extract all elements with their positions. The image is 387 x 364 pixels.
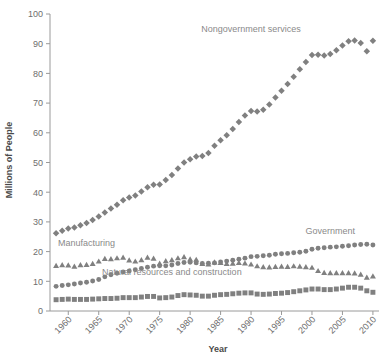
data-point [236,291,241,296]
series-label-1: Manufacturing [58,238,115,248]
data-point [364,274,370,279]
data-point [291,263,297,268]
y-tick-label: 90 [33,39,43,49]
data-point [322,245,327,250]
data-point [260,264,266,269]
data-point [200,261,205,266]
data-point [309,52,316,59]
data-point [248,261,254,266]
data-point [346,243,351,248]
data-point [291,250,296,255]
data-point [77,222,84,229]
data-point [163,258,169,263]
data-point [175,255,181,260]
data-point [340,244,345,249]
data-point [115,296,120,301]
data-point [90,279,95,284]
data-point [71,263,77,268]
data-point [108,296,113,301]
data-point [339,270,345,275]
data-point [132,192,139,199]
data-point [370,273,376,278]
data-point [114,255,120,260]
data-point [144,255,150,260]
data-point [96,258,102,263]
x-tick-label: 1960 [52,314,73,335]
data-point [255,292,260,297]
data-point [175,293,180,298]
data-point [89,217,96,224]
data-point [212,260,217,265]
x-tick-group: 1960196519701975198019851990199520002005… [52,311,378,336]
data-point [254,108,261,115]
data-point [151,294,156,299]
data-point [242,260,248,265]
data-point [334,287,339,292]
data-point [194,260,199,265]
data-point [357,40,364,47]
data-point [206,261,211,266]
series-label-0: Nongovernment services [201,24,301,34]
y-axis-label: Millions of People [4,122,14,199]
data-point [310,247,315,252]
data-point [114,201,121,208]
series-diamond [53,37,376,236]
y-axis: 0102030405060708090100 [28,9,50,316]
data-point [284,81,291,88]
data-point [285,251,290,256]
data-point [230,258,235,263]
data-point [352,243,357,248]
data-point [352,285,357,290]
data-point [132,258,138,263]
data-point [230,291,235,296]
data-point [321,52,328,59]
series-layer [53,37,376,302]
y-tick-label: 30 [33,217,43,227]
data-point [102,296,107,301]
data-point [321,270,327,275]
data-point [156,181,163,188]
data-point [54,284,59,289]
data-point [218,260,223,265]
x-tick-label: 2010 [357,314,378,335]
series-label-2: Government [305,226,355,236]
data-point [200,294,205,299]
data-point [327,270,333,275]
y-tick-label: 80 [33,69,43,79]
y-tick-label: 10 [33,277,43,287]
data-point [285,264,291,269]
data-point [77,262,83,267]
data-point [339,42,346,49]
data-point [364,288,369,293]
data-point [370,290,375,295]
data-point [297,263,303,268]
data-point [72,282,77,287]
data-point [303,264,309,269]
data-point [316,287,321,292]
data-point [182,260,187,265]
x-tick-label: 1985 [205,314,226,335]
x-tick-label: 1970 [113,314,134,335]
data-point [90,297,95,302]
data-point [346,285,351,290]
data-point [84,297,89,302]
data-point [278,87,285,94]
data-point [303,59,310,66]
data-point [83,220,90,227]
data-point [71,224,78,231]
data-point [175,165,182,172]
data-point [303,287,308,292]
data-point [333,270,339,275]
data-point [182,292,187,297]
data-point [90,261,96,266]
data-point [188,292,193,297]
data-point [224,292,229,297]
x-tick-label: 1980 [174,314,195,335]
data-point [66,297,71,302]
data-point [370,243,375,248]
data-point [181,159,188,166]
data-point [266,264,272,269]
data-point [78,281,83,286]
data-point [78,297,83,302]
data-point [309,265,315,270]
